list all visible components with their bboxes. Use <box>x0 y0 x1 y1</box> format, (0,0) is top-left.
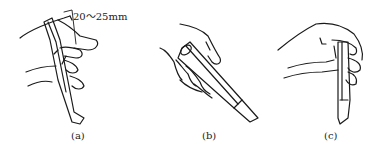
panel-c: (c) <box>260 0 379 157</box>
hand-grip-a-drawing <box>0 0 130 157</box>
caption-a: (a) <box>71 130 85 141</box>
hand-grip-b-drawing <box>130 0 260 157</box>
caption-b: (b) <box>202 130 216 141</box>
dimension-label: 20～25mm <box>73 8 127 23</box>
caption-c: (c) <box>324 130 337 141</box>
hand-grip-c-drawing <box>260 0 379 157</box>
panel-b: (b) <box>130 0 260 157</box>
panel-a: 20～25mm (a) <box>0 0 130 157</box>
